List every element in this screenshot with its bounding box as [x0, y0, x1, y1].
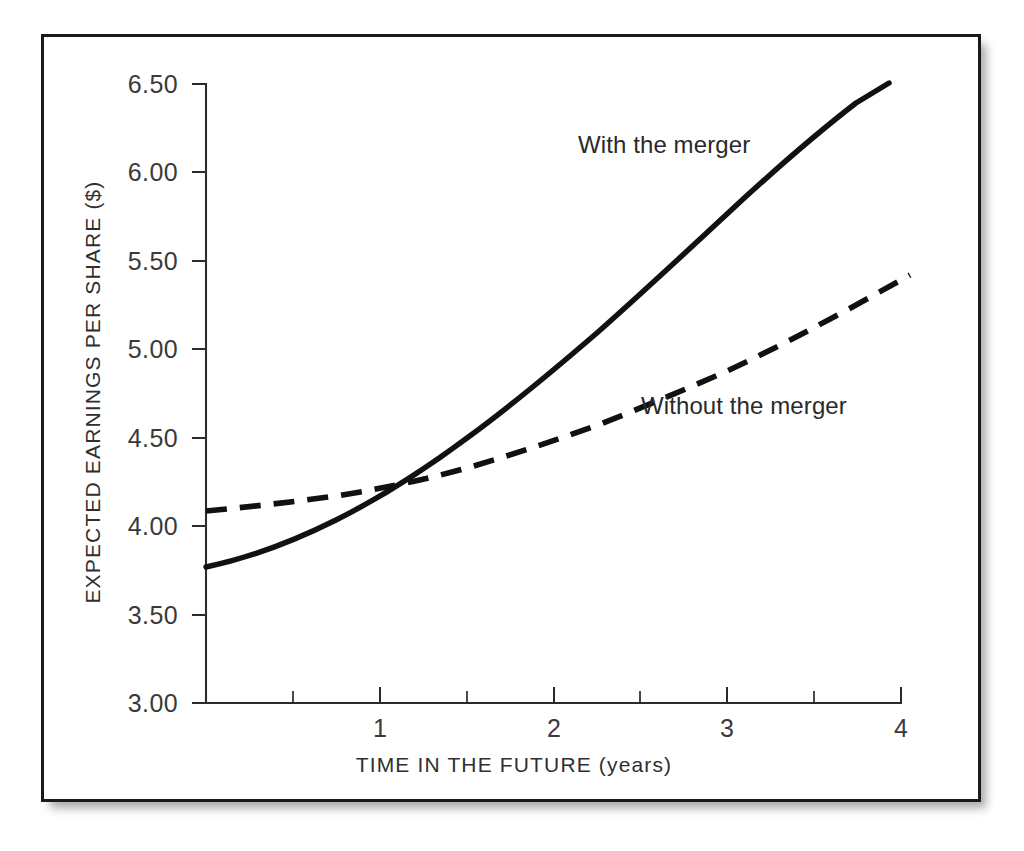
chart-plot-area: 6.50 6.00 5.50 5.00 4.50 4.00 3.50 3.00 …	[44, 37, 978, 799]
y-axis-title: EXPECTED EARNINGS PER SHARE ($)	[81, 62, 105, 722]
x-tick-label-3: 3	[702, 714, 752, 743]
x-tick-label-1: 1	[355, 714, 405, 743]
x-tick-label-2: 2	[529, 714, 579, 743]
x-axis-title: TIME IN THE FUTURE (years)	[44, 753, 984, 777]
series-with-merger-line	[206, 83, 889, 567]
x-tick-label-4: 4	[876, 714, 926, 743]
figure-frame: 6.50 6.00 5.50 5.00 4.50 4.00 3.50 3.00 …	[41, 34, 981, 802]
x-axis-ticks	[293, 687, 901, 703]
chart-canvas	[44, 37, 984, 805]
annotation-with-merger: With the merger	[578, 131, 750, 159]
annotation-without-merger: Without the merger	[641, 392, 847, 420]
y-axis-ticks	[192, 84, 206, 703]
